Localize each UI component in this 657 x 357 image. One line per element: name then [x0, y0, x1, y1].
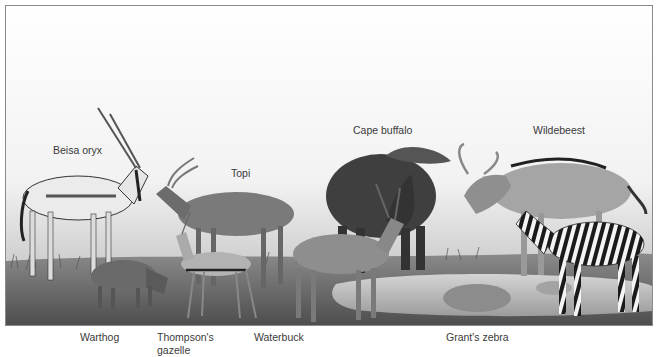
label-waterbuck: Waterbuck	[254, 331, 304, 344]
label-topi: Topi	[231, 167, 250, 180]
label-wildebeest: Wildebeest	[533, 124, 585, 137]
label-thompsons-gazelle: Thompson's gazelle	[157, 331, 217, 357]
rock	[443, 284, 511, 312]
label-grants-zebra: Grant's zebra	[446, 331, 509, 344]
rock	[536, 281, 572, 295]
illustration-frame: Beisa oryx Topi Cape buffalo Wildebeest	[5, 5, 653, 326]
label-warthog: Warthog	[80, 331, 119, 344]
savanna-scene	[6, 6, 652, 325]
label-beisa-oryx: Beisa oryx	[53, 144, 102, 157]
label-cape-buffalo: Cape buffalo	[353, 124, 412, 137]
